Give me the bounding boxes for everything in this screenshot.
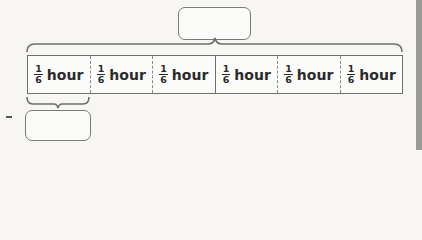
bottom-answer-box[interactable]	[25, 110, 91, 141]
dash-mark	[6, 116, 12, 118]
